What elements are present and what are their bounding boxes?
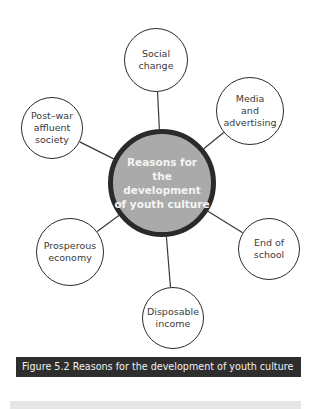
connector-disposable-income	[166, 237, 170, 287]
connector-media-advertising	[204, 133, 224, 149]
node-prosperous-economy: Prosperous economy	[36, 218, 104, 286]
figure-caption: Figure 5.2 Reasons for the development o…	[16, 357, 301, 377]
connector-end-of-school	[208, 211, 243, 232]
node-end-of-school: End of school	[238, 218, 300, 280]
node-social-change: Social change	[124, 28, 188, 92]
node-disposable-income: Disposable income	[142, 287, 204, 349]
connector-post-war-affluent-society	[80, 142, 114, 159]
footer-bar	[10, 401, 301, 409]
node-media-advertising: Media and advertising	[216, 77, 284, 145]
connector-social-change	[158, 92, 160, 129]
connector-prosperous-economy	[97, 215, 119, 231]
hub-node: Reasons for the development of youth cul…	[108, 129, 216, 237]
node-post-war-affluent-society: Post–war affluent society	[21, 97, 83, 159]
